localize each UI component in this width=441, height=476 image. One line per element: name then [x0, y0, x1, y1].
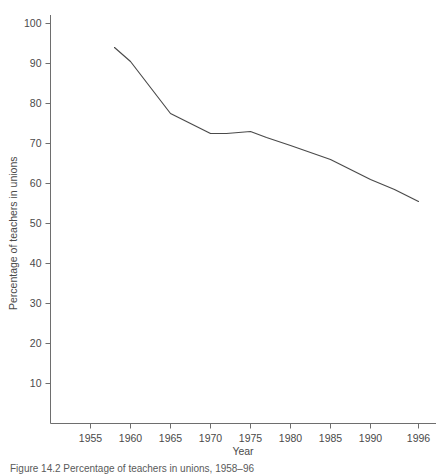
y-tick-label: 30	[30, 297, 42, 309]
x-tick-label: 1965	[159, 432, 183, 444]
y-tick-label: 90	[30, 57, 42, 69]
y-tick-label: 50	[30, 217, 42, 229]
x-tick-label: 1980	[279, 432, 303, 444]
x-tick-label: 1985	[319, 432, 343, 444]
y-tick-label: 10	[30, 377, 42, 389]
y-axis-ticks	[46, 24, 51, 384]
y-tick-label: 70	[30, 137, 42, 149]
figure-caption: Figure 14.2 Percentage of teachers in un…	[10, 463, 435, 475]
x-tick-label: 1960	[119, 432, 143, 444]
y-tick-label: 20	[30, 337, 42, 349]
x-tick-label: 1955	[79, 432, 103, 444]
x-axis-tick-labels: 195519601965197019751980198519901996	[79, 432, 431, 444]
x-tick-label: 1990	[359, 432, 383, 444]
y-tick-label: 100	[24, 17, 42, 29]
y-tick-label: 60	[30, 177, 42, 189]
data-series-line	[115, 48, 419, 202]
line-chart: 102030405060708090100 195519601965197019…	[0, 0, 441, 476]
y-tick-label: 80	[30, 97, 42, 109]
x-tick-label: 1975	[239, 432, 263, 444]
y-axis-tick-labels: 102030405060708090100	[24, 17, 42, 389]
figure-container: 102030405060708090100 195519601965197019…	[0, 0, 441, 476]
x-tick-label: 1996	[407, 432, 431, 444]
x-axis-title: Year	[232, 445, 254, 457]
x-axis-ticks	[91, 424, 419, 429]
y-axis-title: Percentage of teachers in unions	[7, 156, 19, 310]
y-tick-label: 40	[30, 257, 42, 269]
x-tick-label: 1970	[199, 432, 223, 444]
